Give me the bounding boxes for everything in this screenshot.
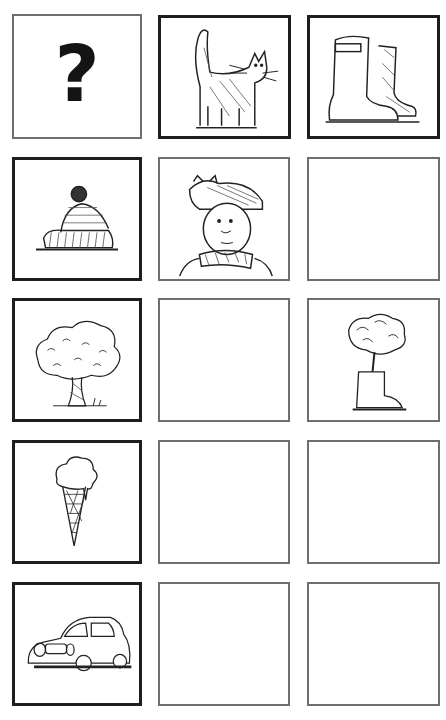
car-icon: [15, 585, 139, 703]
cell-r1-c1: ?: [12, 14, 142, 139]
tree-icon: [15, 301, 139, 419]
hat-icon: [15, 160, 139, 278]
question-mark-icon: ?: [14, 34, 140, 112]
cell-r2-c3[interactable]: [307, 157, 440, 281]
cell-r3-c3: [307, 298, 440, 422]
cell-r2-c2: [158, 157, 290, 281]
ice-cream-icon: [15, 443, 139, 561]
cell-r3-c2[interactable]: [158, 298, 290, 422]
cell-r2-c1: [12, 157, 142, 281]
cell-r5-c1: [12, 582, 142, 706]
cell-r5-c3[interactable]: [307, 582, 440, 706]
boots-icon: [310, 18, 437, 136]
cell-r4-c3[interactable]: [307, 440, 440, 564]
tree-in-boot-icon: [309, 300, 438, 420]
cell-r4-c2[interactable]: [158, 440, 290, 564]
person-with-cat-hat-icon: [160, 159, 288, 279]
cell-r4-c1: [12, 440, 142, 564]
cat-icon: [161, 18, 288, 136]
cell-r3-c1: [12, 298, 142, 422]
cell-r5-c2[interactable]: [158, 582, 290, 706]
cell-r1-c2: [158, 15, 291, 139]
cell-r1-c3: [307, 15, 440, 139]
